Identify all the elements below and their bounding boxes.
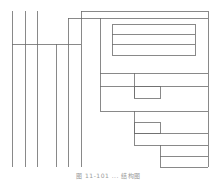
inner-box — [112, 24, 195, 55]
small-box-1 — [134, 86, 160, 98]
structure-diagram — [0, 0, 217, 181]
figure-caption: 图 11-101 ... 结构图 — [0, 171, 217, 180]
small-box-2 — [134, 122, 160, 133]
